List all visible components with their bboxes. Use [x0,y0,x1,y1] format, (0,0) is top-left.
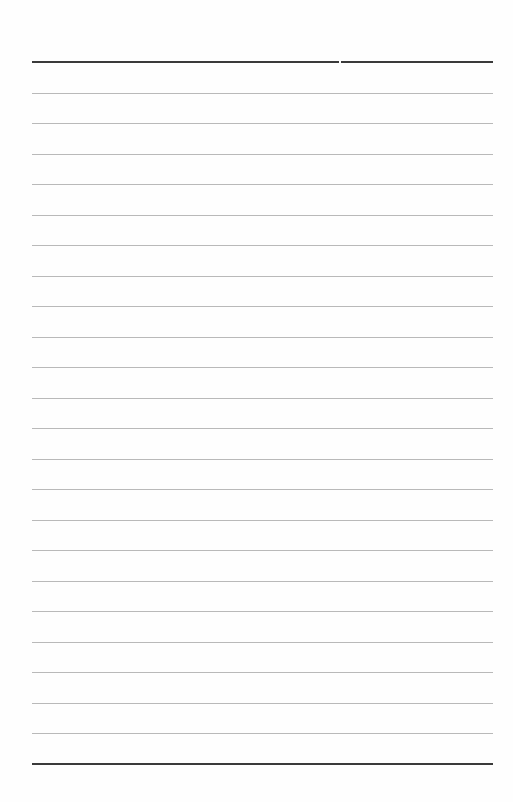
writing-line [32,733,493,734]
writing-line [32,581,493,582]
lined-page [0,0,513,802]
writing-line [32,428,493,429]
writing-line [32,93,493,94]
writing-line [32,489,493,490]
writing-line [32,123,493,124]
bottom-rule [32,763,493,765]
writing-line [32,337,493,338]
writing-line [32,520,493,521]
writing-line [32,703,493,704]
top-rule-right-segment [341,61,493,63]
writing-line [32,245,493,246]
writing-line [32,672,493,673]
writing-line [32,306,493,307]
writing-line [32,184,493,185]
writing-line [32,550,493,551]
writing-line [32,367,493,368]
writing-line [32,154,493,155]
writing-line [32,611,493,612]
top-rule-left-segment [32,61,339,63]
writing-line [32,215,493,216]
writing-line [32,642,493,643]
writing-line [32,276,493,277]
writing-line [32,398,493,399]
writing-line [32,459,493,460]
